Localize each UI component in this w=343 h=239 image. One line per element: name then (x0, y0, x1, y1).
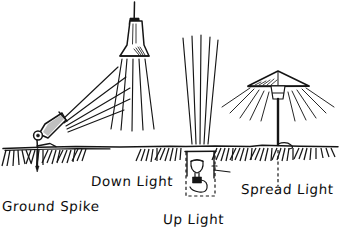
label-up-light: Up Light (163, 211, 225, 227)
ground-line-group (3, 145, 338, 150)
ground-spike-shaft (37, 150, 38, 168)
label-spread-light: Spread Light (241, 181, 335, 197)
up-light-reflector (191, 160, 203, 174)
up-light-neck (195, 173, 199, 177)
up-light-conduit (214, 170, 230, 172)
ground-spike-fixture (34, 67, 130, 172)
ground-spike-stem (37, 140, 38, 148)
ground-hatching (2, 148, 335, 166)
label-ground-spike: Ground Spike (2, 198, 101, 214)
label-down-light: Down Light (91, 173, 174, 189)
up-light-well-box (186, 152, 215, 196)
ground-spike-beams (62, 67, 130, 132)
lighting-types-diagram: Ground Spike Down Light Up Light Spread … (0, 0, 343, 239)
ground-spike-bracket (37, 144, 56, 147)
ground-spike-knuckle-bolt (37, 134, 40, 137)
down-light-fixture (111, 2, 154, 131)
spread-light-fixture (222, 71, 334, 186)
ground-spike-tip (36, 166, 39, 172)
up-light-fixture (183, 35, 230, 196)
up-light-base (193, 177, 202, 183)
down-light-shade (120, 21, 149, 56)
up-light-beams (183, 35, 218, 144)
ground-line-secondary (5, 149, 110, 151)
